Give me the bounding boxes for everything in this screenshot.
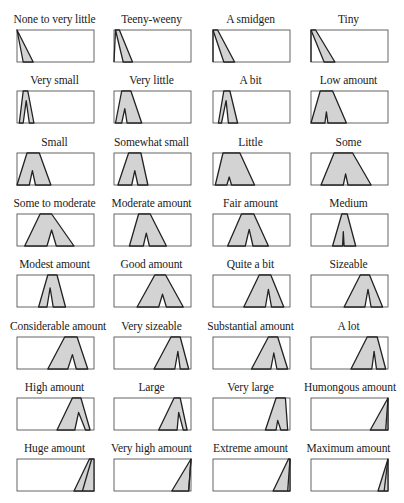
plot-label: Medium <box>304 196 393 210</box>
plot-box <box>310 274 388 307</box>
plot-box <box>310 152 388 185</box>
plot-label: Maximum amount <box>304 441 393 455</box>
membership-plot: Medium <box>310 196 404 252</box>
plot-label: Modest amount <box>10 257 99 271</box>
plot-box <box>310 29 388 62</box>
membership-plot: None to very little <box>16 12 116 68</box>
plot-label: Substantial amount <box>206 319 295 333</box>
plot-label: Small <box>10 135 99 149</box>
plot-label: Teeny-weeny <box>107 12 196 26</box>
plot-box <box>310 397 388 430</box>
plot-box <box>310 458 388 491</box>
membership-plot: Very sizeable <box>113 319 213 375</box>
membership-plot: A smidgen <box>212 12 312 68</box>
plot-label: Somewhat small <box>107 135 196 149</box>
plot-box <box>16 29 94 62</box>
plot-label: Considerable amount <box>10 319 99 333</box>
membership-plot: Humongous amount <box>310 380 404 436</box>
membership-plot: Little <box>212 135 312 191</box>
plot-label: Fair amount <box>206 196 295 210</box>
plot-label: Some <box>304 135 393 149</box>
plot-box <box>113 213 191 246</box>
plot-box <box>113 458 191 491</box>
plot-box <box>212 458 290 491</box>
plot-label: Little <box>206 135 295 149</box>
plot-box <box>310 336 388 369</box>
plot-label: Very large <box>206 380 295 394</box>
plot-label: Tiny <box>304 12 393 26</box>
membership-plot: Very small <box>16 73 116 129</box>
membership-plot: Sizeable <box>310 257 404 313</box>
plot-label: A smidgen <box>206 12 295 26</box>
membership-plot: Fair amount <box>212 196 312 252</box>
plot-box <box>113 397 191 430</box>
plot-box <box>310 213 388 246</box>
plot-box <box>16 213 94 246</box>
plot-label: Low amount <box>304 73 393 87</box>
membership-plot: Small <box>16 135 116 191</box>
plot-box <box>212 213 290 246</box>
membership-plot: Substantial amount <box>212 319 312 375</box>
plot-box <box>113 274 191 307</box>
membership-plot: Somewhat small <box>113 135 213 191</box>
axis-frame <box>311 459 388 491</box>
plot-label: High amount <box>10 380 99 394</box>
plot-label: Good amount <box>107 257 196 271</box>
plot-label: Sizeable <box>304 257 393 271</box>
membership-plot: Considerable amount <box>16 319 116 375</box>
membership-plot: Very high amount <box>113 441 213 497</box>
plot-box <box>113 336 191 369</box>
plot-label: Humongous amount <box>304 380 393 394</box>
plot-box <box>212 274 290 307</box>
plot-label: Very sizeable <box>107 319 196 333</box>
plot-label: None to very little <box>10 12 99 26</box>
plot-label: A lot <box>304 319 393 333</box>
membership-plot: Teeny-weeny <box>113 12 213 68</box>
plot-label: Very little <box>107 73 196 87</box>
membership-plot: Low amount <box>310 73 404 129</box>
membership-plot: A bit <box>212 73 312 129</box>
plot-label: Extreme amount <box>206 441 295 455</box>
membership-plot: Extreme amount <box>212 441 312 497</box>
plot-box <box>212 29 290 62</box>
membership-plot: High amount <box>16 380 116 436</box>
plot-label: A bit <box>206 73 295 87</box>
plot-label: Large <box>107 380 196 394</box>
plot-box <box>113 90 191 123</box>
membership-plot: Tiny <box>310 12 404 68</box>
plot-box <box>310 90 388 123</box>
membership-plot: Some to moderate <box>16 196 116 252</box>
membership-plot: Maximum amount <box>310 441 404 497</box>
plot-label: Very high amount <box>107 441 196 455</box>
plot-label: Very small <box>10 73 99 87</box>
plot-label: Quite a bit <box>206 257 295 271</box>
plot-label: Moderate amount <box>107 196 196 210</box>
membership-plot: A lot <box>310 319 404 375</box>
plot-box <box>16 458 94 491</box>
plot-label: Huge amount <box>10 441 99 455</box>
membership-plot: Very little <box>113 73 213 129</box>
plot-box <box>212 397 290 430</box>
plot-box <box>16 152 94 185</box>
plot-box <box>113 29 191 62</box>
membership-plot: Large <box>113 380 213 436</box>
plot-label: Some to moderate <box>10 196 99 210</box>
membership-plot: Some <box>310 135 404 191</box>
membership-plot: Modest amount <box>16 257 116 313</box>
plot-box <box>16 397 94 430</box>
plot-box <box>113 152 191 185</box>
plot-box <box>16 336 94 369</box>
membership-plot: Very large <box>212 380 312 436</box>
plot-box <box>212 90 290 123</box>
membership-plot: Quite a bit <box>212 257 312 313</box>
membership-plot: Good amount <box>113 257 213 313</box>
plot-box <box>212 152 290 185</box>
plot-box <box>16 274 94 307</box>
membership-plot: Huge amount <box>16 441 116 497</box>
membership-plot: Moderate amount <box>113 196 213 252</box>
plot-box <box>212 336 290 369</box>
plot-box <box>16 90 94 123</box>
